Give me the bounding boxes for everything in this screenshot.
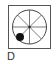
marker-dot (16, 33, 24, 41)
center-dot (28, 26, 30, 28)
option-label: D (7, 51, 15, 62)
answer-option-d[interactable]: D (0, 0, 56, 64)
